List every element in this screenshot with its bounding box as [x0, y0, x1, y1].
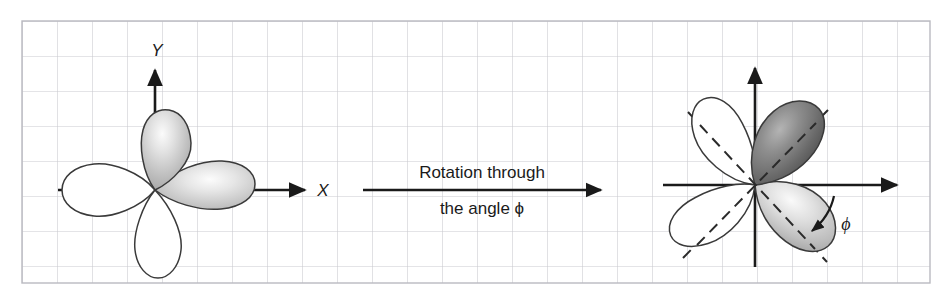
- caption-line-1: Rotation through: [419, 163, 545, 182]
- orbital-rotation-figure: Y X Rotation through the angle ϕ: [0, 0, 949, 303]
- caption-line-2: the angle ϕ: [440, 199, 524, 218]
- left-y-axis-label: Y: [151, 41, 164, 60]
- phi-angle-label: ϕ: [841, 214, 850, 234]
- figure-canvas: Y X Rotation through the angle ϕ: [0, 0, 949, 303]
- left-x-axis-label: X: [316, 181, 329, 200]
